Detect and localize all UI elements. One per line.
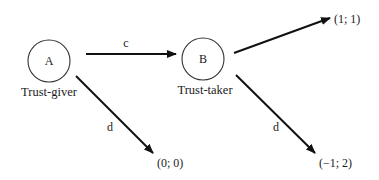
- node-b-caption: Trust-taker: [177, 83, 233, 97]
- edge-label-c: c: [123, 36, 128, 50]
- edge-label-d-b: d: [273, 120, 279, 134]
- edge-b-to-payoff-honor: [234, 18, 330, 53]
- node-b: B Trust-taker: [177, 38, 233, 97]
- arrow-up-right-icon: [234, 18, 330, 53]
- node-b-label: B: [199, 52, 207, 66]
- payoff-b-abuse: (−1; 2): [319, 156, 352, 170]
- trust-game-diagram: A Trust-giver B Trust-taker c d d: [0, 0, 379, 180]
- edge-b-to-payoff-abuse: d: [236, 75, 315, 153]
- node-a: A Trust-giver: [21, 40, 78, 99]
- payoff-b-honor: (1; 1): [334, 12, 360, 26]
- node-a-caption: Trust-giver: [21, 85, 78, 99]
- payoff-a-distrust: (0; 0): [157, 156, 183, 170]
- edge-a-to-payoff: d: [76, 76, 153, 153]
- edge-a-to-b: c: [86, 36, 176, 54]
- arrow-down-right-icon: [236, 75, 315, 153]
- diagram-svg: A Trust-giver B Trust-taker c d d: [0, 0, 379, 180]
- edge-label-d-a: d: [107, 120, 113, 134]
- node-a-label: A: [45, 54, 54, 68]
- arrow-down-right-icon: [76, 76, 153, 153]
